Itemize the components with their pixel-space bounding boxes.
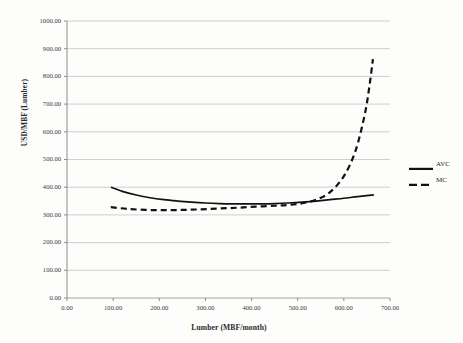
plot-area xyxy=(0,0,463,343)
legend-key-dashed xyxy=(408,182,434,186)
legend-item-mc: MC xyxy=(408,176,460,192)
gridlines xyxy=(67,21,390,298)
chart-legend: AVC MC xyxy=(408,160,460,192)
axis-tick-marks xyxy=(64,21,390,301)
legend-key-solid xyxy=(408,166,434,170)
legend-label-avc: AVC xyxy=(436,160,450,168)
series-line-avc xyxy=(111,187,374,204)
legend-item-avc: AVC xyxy=(408,160,460,176)
cost-curve-chart: USD/MBF (Lumber) Lumber (MBF/month) 0.00… xyxy=(0,0,463,343)
legend-label-mc: MC xyxy=(436,176,447,184)
